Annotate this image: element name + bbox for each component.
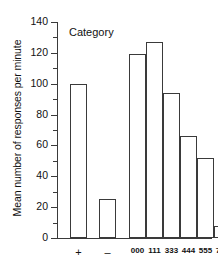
y-axis-major-tick: 100 bbox=[51, 84, 57, 85]
category-annotation: Category bbox=[69, 26, 114, 38]
plot-area: Category 020406080100120140 +–0001113334… bbox=[57, 22, 212, 238]
y-axis-minor-tick bbox=[53, 68, 57, 69]
bar-chart: Mean number of responses per minute Cate… bbox=[0, 0, 218, 269]
y-axis-tick-label: 0 bbox=[18, 231, 48, 243]
y-axis-tick-label: 100 bbox=[18, 77, 48, 89]
x-axis-tick-label: 111 bbox=[148, 246, 160, 255]
y-axis-major-tick: 60 bbox=[51, 145, 57, 146]
bar bbox=[180, 136, 197, 238]
x-axis-tick-label: 333 bbox=[165, 246, 178, 255]
bar bbox=[70, 84, 87, 238]
x-axis-tick-label: 555 bbox=[199, 246, 212, 255]
bar bbox=[129, 54, 146, 238]
y-axis-major-tick: 20 bbox=[51, 207, 57, 208]
y-axis-major-tick: 0 bbox=[51, 238, 57, 239]
y-axis-minor-tick bbox=[53, 192, 57, 193]
y-axis-tick-label: 20 bbox=[18, 200, 48, 212]
bar bbox=[163, 93, 180, 238]
x-axis-line bbox=[57, 238, 212, 239]
bar bbox=[99, 199, 116, 238]
x-axis-tick-label: + bbox=[75, 246, 81, 258]
y-axis-tick-label: 140 bbox=[18, 15, 48, 27]
bar bbox=[214, 226, 218, 238]
x-axis-tick-label: – bbox=[104, 246, 110, 258]
y-axis-tick-label: 80 bbox=[18, 108, 48, 120]
y-axis-minor-tick bbox=[53, 99, 57, 100]
y-axis-line bbox=[57, 22, 58, 239]
y-axis-minor-tick bbox=[53, 223, 57, 224]
x-axis-tick-label: 777 bbox=[216, 246, 218, 255]
bar bbox=[146, 42, 163, 238]
y-axis-tick-label: 40 bbox=[18, 169, 48, 181]
y-axis-minor-tick bbox=[53, 130, 57, 131]
y-axis-major-tick: 140 bbox=[51, 22, 57, 23]
y-axis-major-tick: 40 bbox=[51, 176, 57, 177]
x-axis-tick-label: 000 bbox=[131, 246, 144, 255]
y-axis-minor-tick bbox=[53, 37, 57, 38]
y-axis-major-tick: 120 bbox=[51, 53, 57, 54]
y-axis-major-tick: 80 bbox=[51, 115, 57, 116]
bar bbox=[197, 158, 214, 238]
y-axis-tick-label: 120 bbox=[18, 46, 48, 58]
y-axis-tick-label: 60 bbox=[18, 138, 48, 150]
x-axis-tick-label: 444 bbox=[182, 246, 195, 255]
y-axis-minor-tick bbox=[53, 161, 57, 162]
